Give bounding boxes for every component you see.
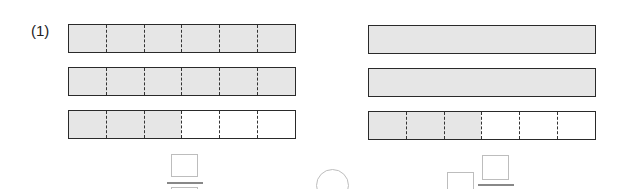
right-numerator-box[interactable] [482, 155, 509, 180]
left-bar-3 [68, 110, 296, 139]
right-bar-1 [368, 25, 596, 54]
right-bar-3 [368, 111, 596, 140]
left-fraction-line [167, 182, 203, 184]
left-denominator-box[interactable] [171, 187, 198, 189]
comparison-circle[interactable] [316, 169, 349, 189]
right-fraction-line [478, 184, 514, 186]
right-bar-2 [368, 68, 596, 97]
left-numerator-box[interactable] [171, 154, 198, 177]
problem-label: (1) [31, 22, 49, 39]
right-whole-box[interactable] [447, 172, 474, 189]
left-bar-2 [68, 67, 296, 96]
left-bar-1 [68, 24, 296, 53]
